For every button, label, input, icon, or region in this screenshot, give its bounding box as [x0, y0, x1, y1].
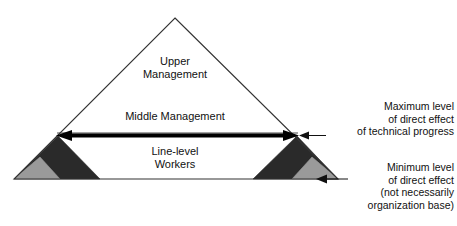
pyramid-level-label-line: Line-level Workers: [120, 145, 230, 171]
callout-minimum-level: Minimum level of direct effect (not nece…: [326, 161, 454, 211]
diagram-canvas: Upper Management Middle Management Line-…: [0, 0, 457, 226]
callout-maximum-level: Maximum level of direct effect of techni…: [330, 100, 454, 138]
pyramid-level-label-middle: Middle Management: [110, 110, 240, 123]
pyramid-level-label-upper: Upper Management: [120, 55, 230, 81]
